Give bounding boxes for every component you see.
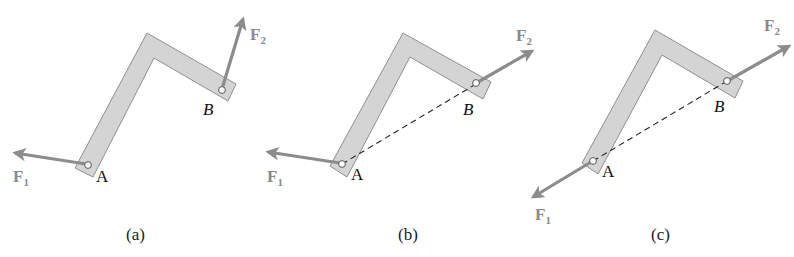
panel-b: F1 F2 A B (b) [267, 26, 532, 244]
caption-c: (c) [651, 225, 670, 244]
force-f1-arrow [533, 162, 591, 197]
force-f1-arrow [15, 153, 86, 164]
pin-hole-a [590, 158, 597, 165]
point-a-label: A [602, 162, 615, 181]
pin-hole-b [219, 87, 226, 94]
force-f1-label: F1 [13, 167, 29, 188]
force-f2-arrow [729, 46, 789, 80]
caption-b: (b) [398, 225, 418, 244]
point-b-label: B [714, 97, 725, 116]
force-f2-label: F2 [516, 26, 532, 47]
point-a-label: A [351, 165, 364, 184]
point-a-label: A [96, 167, 109, 186]
force-f2-label: F2 [250, 25, 266, 46]
pin-hole-a [339, 161, 346, 168]
pin-hole-b [724, 78, 731, 85]
force-f2-label: F2 [764, 16, 780, 37]
pin-hole-a [85, 162, 92, 169]
force-f1-label: F1 [535, 205, 551, 226]
panel-a: F1 F2 A B (a) [13, 19, 266, 244]
force-f2-arrow [478, 51, 532, 82]
pin-hole-b [473, 80, 480, 87]
point-b-label: B [463, 100, 474, 119]
panel-c: F1 F2 A B (c) [533, 16, 789, 244]
force-f1-arrow [268, 152, 340, 163]
force-f2-arrow [222, 19, 243, 89]
caption-a: (a) [126, 225, 145, 244]
point-b-label: B [203, 100, 214, 119]
two-force-member-diagram: F1 F2 A B (a) F1 F2 A B (b) F1 F2 A B (c… [0, 0, 794, 257]
force-f1-label: F1 [267, 167, 283, 188]
